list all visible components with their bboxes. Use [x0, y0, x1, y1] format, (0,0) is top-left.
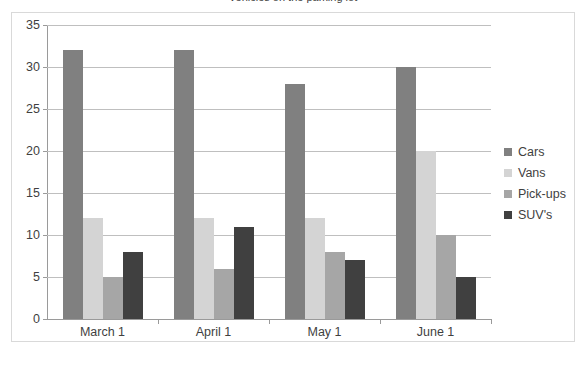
legend-item-cars[interactable]: Cars: [504, 141, 574, 162]
legend-swatch-cars: [504, 148, 512, 156]
legend-label: SUV's: [518, 208, 552, 222]
x-axis-labels: March 1April 1May 1June 1: [47, 325, 491, 347]
legend-swatch-vans: [504, 169, 512, 177]
bar-group: [380, 25, 491, 319]
legend-label: Pick-ups: [518, 187, 566, 201]
legend-item-vans[interactable]: Vans: [504, 162, 574, 183]
y-tick-mark: [43, 319, 47, 320]
bar-group: [269, 25, 380, 319]
chart-title-strip: Vehicles on the parking lot: [0, 0, 586, 11]
legend-label: Cars: [518, 145, 544, 159]
bars-layer: [47, 25, 491, 319]
category-separator: [380, 319, 381, 324]
bar-pick-ups[interactable]: [214, 269, 234, 319]
bar-cars[interactable]: [63, 50, 83, 319]
bar-suv-s[interactable]: [345, 260, 365, 319]
x-tick-label: March 1: [47, 325, 158, 339]
legend-item-pick-ups[interactable]: Pick-ups: [504, 183, 574, 204]
category-separator: [269, 319, 270, 324]
bar-suv-s[interactable]: [123, 252, 143, 319]
y-tick-label: 10: [26, 228, 40, 242]
bar-cars[interactable]: [174, 50, 194, 319]
chart-title: Vehicles on the parking lot: [0, 0, 586, 3]
y-tick-label: 35: [26, 18, 40, 32]
bar-cars[interactable]: [396, 67, 416, 319]
chart-legend: CarsVansPick-upsSUV's: [504, 141, 574, 225]
bar-vans[interactable]: [194, 218, 214, 319]
x-tick-label: May 1: [269, 325, 380, 339]
x-tick-label: June 1: [380, 325, 491, 339]
bar-vans[interactable]: [83, 218, 103, 319]
y-tick-label: 30: [26, 60, 40, 74]
y-tick-label: 15: [26, 186, 40, 200]
legend-swatch-suv-s: [504, 211, 512, 219]
chart-frame: 05101520253035 March 1April 1May 1June 1…: [11, 12, 575, 342]
legend-item-suv-s[interactable]: SUV's: [504, 204, 574, 225]
category-separator: [491, 319, 492, 324]
bar-suv-s[interactable]: [234, 227, 254, 319]
bar-pick-ups[interactable]: [436, 235, 456, 319]
bar-cars[interactable]: [285, 84, 305, 319]
bar-vans[interactable]: [416, 151, 436, 319]
x-tick-label: April 1: [158, 325, 269, 339]
bar-suv-s[interactable]: [456, 277, 476, 319]
y-tick-label: 25: [26, 102, 40, 116]
plot-area: 05101520253035: [47, 25, 491, 319]
y-tick-label: 5: [33, 270, 40, 284]
bar-group: [47, 25, 158, 319]
category-separator: [158, 319, 159, 324]
legend-swatch-pick-ups: [504, 190, 512, 198]
bar-pick-ups[interactable]: [325, 252, 345, 319]
bar-pick-ups[interactable]: [103, 277, 123, 319]
legend-label: Vans: [518, 166, 546, 180]
y-tick-label: 0: [33, 312, 40, 326]
bar-vans[interactable]: [305, 218, 325, 319]
bar-group: [158, 25, 269, 319]
y-tick-label: 20: [26, 144, 40, 158]
